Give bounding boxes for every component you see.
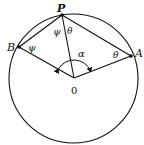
angle-alpha-at-O: α xyxy=(78,48,85,59)
label-O: 0 xyxy=(71,85,77,96)
angle-theta-at-A: θ xyxy=(113,50,119,60)
label-B: B xyxy=(6,41,15,54)
radius-OA xyxy=(74,56,131,78)
circle-geometry-diagram: P B A 0 ψ θ ψ θ α xyxy=(0,0,144,145)
angle-psi-at-P: ψ xyxy=(53,26,61,37)
circle-outline xyxy=(9,14,138,143)
angle-theta-at-P: θ xyxy=(67,26,73,36)
radius-OP xyxy=(62,15,74,78)
alpha-angle-arc xyxy=(58,60,91,72)
point-A xyxy=(129,54,133,58)
point-B xyxy=(17,45,21,49)
angle-psi-at-B: ψ xyxy=(28,42,36,53)
label-A: A xyxy=(134,47,143,60)
label-P: P xyxy=(56,2,66,15)
